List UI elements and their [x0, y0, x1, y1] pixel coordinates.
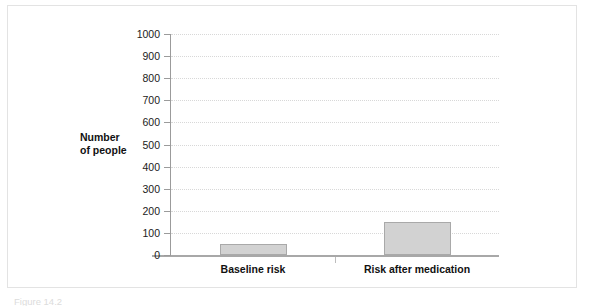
x-axis-tick-label: Baseline risk — [171, 263, 335, 275]
y-axis-tick-label: 700 — [120, 95, 160, 105]
y-axis-tick-label: 300 — [120, 184, 160, 194]
x-axis-spine — [152, 255, 499, 257]
y-axis-tick-label-text: 300 — [124, 184, 160, 194]
y-axis-tick-label-text: 700 — [124, 95, 160, 105]
x-axis-tick-label: Risk after medication — [335, 263, 499, 275]
gridline — [171, 189, 499, 190]
y-axis-tick — [164, 122, 171, 123]
y-axis-tick-label: 1000 — [120, 29, 160, 39]
y-axis-tick-label-text: 1000 — [124, 29, 160, 39]
gridline — [171, 100, 499, 101]
y-axis-tick-label-text: 900 — [124, 51, 160, 61]
y-axis-tick-label: 200 — [120, 206, 160, 216]
y-axis-tick-label-text: 600 — [124, 117, 160, 127]
y-axis-tick-label: 500 — [120, 140, 160, 150]
y-axis-tick-label: 0 — [120, 250, 160, 260]
gridline — [171, 167, 499, 168]
y-axis-tick — [164, 56, 171, 57]
bar — [384, 222, 451, 255]
y-axis-tick — [164, 167, 171, 168]
y-axis-tick — [164, 233, 171, 234]
y-axis-tick-label-text: 200 — [124, 206, 160, 216]
y-axis-tick — [164, 34, 171, 35]
gridline — [171, 211, 499, 212]
figure-caption: Figure 14.2 — [14, 296, 62, 306]
y-axis-tick-label: 800 — [120, 73, 160, 83]
bar — [220, 244, 287, 255]
y-axis-tick-label-text: 100 — [124, 228, 160, 238]
gridline — [171, 145, 499, 146]
x-axis-tick — [335, 257, 336, 263]
y-axis-tick-label-text: 500 — [124, 140, 160, 150]
y-axis-tick — [164, 189, 171, 190]
y-axis-tick-label: 600 — [120, 117, 160, 127]
bar-chart: Number of people 01002003004005006007008… — [0, 0, 589, 307]
y-axis-tick-label: 900 — [120, 51, 160, 61]
y-axis-tick-label-text: 0 — [124, 250, 160, 260]
y-axis-tick — [164, 100, 171, 101]
gridline — [171, 122, 499, 123]
y-axis-tick — [164, 211, 171, 212]
gridline — [171, 56, 499, 57]
y-axis-tick-label-text: 800 — [124, 73, 160, 83]
y-axis-tick — [164, 255, 171, 256]
y-axis-tick — [164, 78, 171, 79]
y-axis-tick — [164, 145, 171, 146]
gridline — [171, 78, 499, 79]
gridline — [171, 34, 499, 35]
y-axis-tick-label: 100 — [120, 228, 160, 238]
y-axis-tick-label-text: 400 — [124, 162, 160, 172]
y-axis-tick-label: 400 — [120, 162, 160, 172]
